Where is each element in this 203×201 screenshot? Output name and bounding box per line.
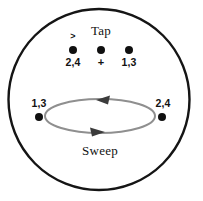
- tap-dot-2: [97, 46, 105, 54]
- tap-sweep-diagram: Tap > 2,4 + 1,3 1,3 2,4 Sweep: [0, 0, 203, 201]
- right-side-dot: [158, 113, 166, 121]
- left-side-dot: [35, 113, 43, 121]
- tap-dot-1: [69, 46, 77, 54]
- diagram-canvas: [0, 0, 203, 201]
- tap-dot-3: [125, 46, 133, 54]
